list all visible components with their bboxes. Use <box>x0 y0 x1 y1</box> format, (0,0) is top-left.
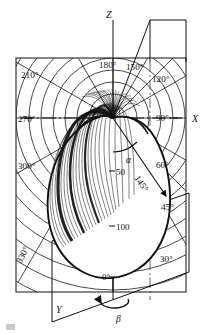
axis-label-y: Y <box>56 304 63 315</box>
azimuth-label-120: 120° <box>152 74 170 84</box>
azimuth-label-45: 45° <box>161 202 174 212</box>
azimuth-label-60: 60° <box>156 160 169 170</box>
azimuth-label-270: 270° <box>18 114 36 124</box>
radial-tick-label-50: 50 <box>116 167 126 177</box>
azimuth-label-0: 0° <box>102 272 111 282</box>
azimuth-label-210: 210° <box>21 70 39 80</box>
azimuth-label-180: 180° <box>99 60 117 70</box>
caption-marker <box>6 324 15 330</box>
azimuth-label-90: 90° <box>156 113 169 123</box>
axis-label-x: X <box>191 113 199 124</box>
azimuth-label-150: 150° <box>126 62 144 72</box>
radial-tick-label-100: 100 <box>116 222 130 232</box>
figure-caption <box>6 323 208 332</box>
azimuth-label-30: 30° <box>160 254 173 264</box>
polar-pattern-diagram: Z X Y 180° 150° 120° 90° 60° 45° 30° 0° … <box>0 0 214 334</box>
axis-label-z: Z <box>106 9 112 20</box>
figure-root: Z X Y 180° 150° 120° 90° 60° 45° 30° 0° … <box>0 0 214 334</box>
beta-angle-arc <box>101 299 129 308</box>
azimuth-label-300: 300° <box>18 161 36 171</box>
